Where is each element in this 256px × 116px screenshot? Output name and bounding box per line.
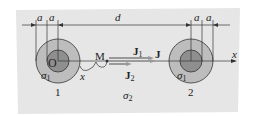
- label-point-m: M: [95, 50, 105, 62]
- diagram-canvas: a a d a a x x O M J1 J2 J σ1 σ1 σ2 1 2: [0, 0, 256, 116]
- label-x-distance: x: [79, 70, 85, 82]
- label-a-1: a: [37, 11, 43, 23]
- point-m: [106, 60, 109, 63]
- label-d: d: [115, 11, 121, 23]
- label-a-3: a: [194, 11, 200, 23]
- label-j: J: [155, 48, 161, 60]
- label-a-4: a: [206, 11, 212, 23]
- label-electrode-2: 2: [188, 86, 194, 98]
- label-electrode-1: 1: [55, 86, 61, 98]
- label-x-axis: x: [231, 48, 237, 60]
- label-origin: O: [48, 56, 57, 70]
- label-a-2: a: [49, 11, 55, 23]
